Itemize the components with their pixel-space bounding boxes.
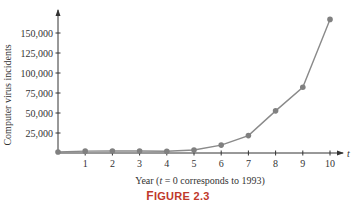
data-point xyxy=(273,108,279,114)
caption-rest: IGURE 2.3 xyxy=(154,190,210,202)
y-tick-label: 150,000 xyxy=(21,28,54,39)
x-axis-symbol: t xyxy=(347,148,350,159)
caption-initial: F xyxy=(146,189,154,203)
data-point xyxy=(137,148,143,154)
y-tick-label: 100,000 xyxy=(21,68,54,79)
x-tick-label: 9 xyxy=(300,158,305,169)
data-point xyxy=(164,148,170,154)
y-axis-label: Computer virus incidents xyxy=(2,44,13,145)
x-axis-arrow-icon xyxy=(337,151,344,156)
data-point xyxy=(55,149,61,155)
y-axis-arrow-icon xyxy=(56,9,61,16)
y-tick-label: 50,000 xyxy=(26,108,54,119)
x-tick-label: 4 xyxy=(164,158,169,169)
x-tick-label: 3 xyxy=(137,158,142,169)
data-point xyxy=(82,148,88,154)
data-point xyxy=(191,147,197,153)
data-point xyxy=(327,17,333,23)
y-tick-label: 25,000 xyxy=(26,128,54,139)
x-tick-label: 6 xyxy=(219,158,224,169)
x-tick-label: 7 xyxy=(246,158,251,169)
x-tick-label: 2 xyxy=(110,158,115,169)
data-line xyxy=(58,19,330,152)
figure-caption: FIGURE 2.3 xyxy=(0,189,356,203)
x-tick-label: 5 xyxy=(192,158,197,169)
y-tick-label: 125,000 xyxy=(21,48,54,59)
data-point xyxy=(218,142,224,148)
x-tick-label: 8 xyxy=(273,158,278,169)
data-point xyxy=(300,85,306,91)
data-point xyxy=(110,148,116,154)
y-tick-label: 75,000 xyxy=(26,88,54,99)
data-point xyxy=(246,133,252,139)
line-chart: t25,00050,00075,000100,000125,000150,000… xyxy=(0,0,356,188)
x-tick-label: 10 xyxy=(325,158,335,169)
x-axis-label: Year (t = 0 corresponds to 1993) xyxy=(135,175,265,187)
x-tick-label: 1 xyxy=(83,158,88,169)
